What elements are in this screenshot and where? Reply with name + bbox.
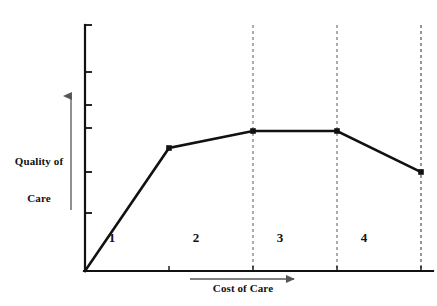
- data-point-marker: [250, 128, 256, 134]
- zone-label-3: 3: [265, 230, 295, 246]
- zone-label-4: 4: [349, 230, 379, 246]
- data-point-marker: [418, 169, 424, 175]
- zone-label-2: 2: [181, 230, 211, 246]
- y-axis-title-line1: Quality of: [2, 155, 76, 167]
- x-axis-title: Cost of Care: [172, 282, 314, 294]
- y-axis-title-line2: Care: [2, 192, 76, 204]
- y-axis-title: Quality of Care: [2, 130, 76, 229]
- data-point-marker: [334, 128, 340, 134]
- zone-label-1: 1: [97, 230, 127, 246]
- data-point-marker: [166, 145, 172, 151]
- chart-figure: Quality of Care Cost of Care 1 2 3 4: [0, 0, 437, 306]
